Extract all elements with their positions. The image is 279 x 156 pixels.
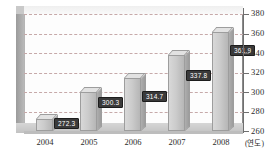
x-tick-label-2004: 2004 <box>28 137 62 147</box>
bar-side-2007 <box>185 51 190 131</box>
y-tick-label-280: 280 <box>251 107 264 115</box>
y-tick-280 <box>244 112 249 113</box>
y-tick-label-300: 300 <box>251 88 264 96</box>
y-tick-label-260: 260 <box>251 127 264 135</box>
plot-back-top-face <box>16 6 243 14</box>
y-tick-340 <box>244 53 249 54</box>
bar-chart: 272.3 300.3 314.7 337.8 361.9 380 360 34… <box>0 0 279 156</box>
bar-2008 <box>212 32 229 131</box>
bar-side-2006 <box>141 73 146 131</box>
plot-left-wall <box>16 6 24 123</box>
bar-2004 <box>36 119 53 131</box>
y-axis-line <box>243 8 244 133</box>
x-axis-unit-label: (연도) <box>245 137 264 148</box>
data-label-2005: 300.3 <box>98 97 123 108</box>
y-tick-label-360: 360 <box>251 29 264 37</box>
data-label-2007: 337.8 <box>186 70 211 81</box>
data-label-2004: 272.3 <box>54 118 79 129</box>
y-tick-260 <box>244 131 249 132</box>
bar-side-2005 <box>97 87 102 131</box>
y-tick-300 <box>244 92 249 93</box>
data-label-2006: 314.7 <box>142 91 167 102</box>
x-tick-label-2007: 2007 <box>160 137 194 147</box>
y-tick-label-320: 320 <box>251 68 264 76</box>
y-tick-label-380: 380 <box>251 9 264 17</box>
bar-2005 <box>80 92 97 131</box>
y-tick-label-340: 340 <box>251 49 264 57</box>
plot-floor-front <box>24 131 243 134</box>
x-tick-label-2005: 2005 <box>72 137 106 147</box>
gridline-380 <box>24 14 243 15</box>
gridline-340 <box>24 53 243 54</box>
bar-2006 <box>124 78 141 131</box>
bar-side-2008 <box>229 27 234 131</box>
y-tick-360 <box>244 34 249 35</box>
x-tick-label-2006: 2006 <box>116 137 150 147</box>
y-tick-320 <box>244 73 249 74</box>
bar-2007 <box>168 55 185 131</box>
plot-left-wall-top <box>16 6 24 14</box>
gridline-360 <box>24 34 243 35</box>
y-tick-380 <box>244 14 249 15</box>
x-tick-label-2008: 2008 <box>204 137 238 147</box>
